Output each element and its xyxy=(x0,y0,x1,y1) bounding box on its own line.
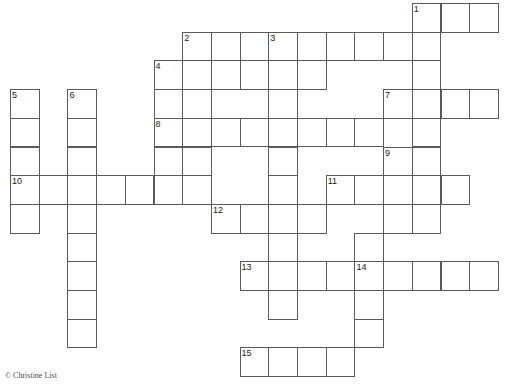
crossword-cell[interactable] xyxy=(96,175,126,205)
crossword-cell[interactable] xyxy=(412,60,442,90)
crossword-cell[interactable] xyxy=(182,60,212,90)
crossword-cell[interactable] xyxy=(211,60,241,90)
crossword-cell[interactable] xyxy=(268,347,298,377)
crossword-cell-numbered[interactable]: 15 xyxy=(240,347,270,377)
crossword-cell[interactable] xyxy=(412,32,442,62)
clue-number: 8 xyxy=(156,119,161,129)
crossword-cell-numbered[interactable]: 12 xyxy=(211,204,241,234)
clue-number: 3 xyxy=(270,33,275,43)
crossword-cell-numbered[interactable]: 1 xyxy=(412,3,442,33)
crossword-cell-numbered[interactable]: 14 xyxy=(354,261,384,291)
crossword-cell[interactable] xyxy=(268,60,298,90)
crossword-cell[interactable] xyxy=(441,261,471,291)
crossword-cell[interactable] xyxy=(354,32,384,62)
crossword-cell[interactable] xyxy=(125,175,155,205)
crossword-cell[interactable] xyxy=(297,118,327,148)
crossword-cell[interactable] xyxy=(326,118,356,148)
crossword-cell[interactable] xyxy=(154,89,184,119)
clue-number: 10 xyxy=(12,176,22,186)
crossword-cell[interactable] xyxy=(469,261,499,291)
crossword-cell[interactable] xyxy=(297,347,327,377)
crossword-cell[interactable] xyxy=(67,118,97,148)
crossword-cell[interactable] xyxy=(182,147,212,177)
crossword-cell[interactable] xyxy=(67,319,97,349)
crossword-cell[interactable] xyxy=(354,319,384,349)
crossword-cell-numbered[interactable]: 9 xyxy=(383,147,413,177)
clue-number: 13 xyxy=(242,262,252,272)
crossword-cell-numbered[interactable]: 2 xyxy=(182,32,212,62)
crossword-cell[interactable] xyxy=(10,118,40,148)
crossword-cell[interactable] xyxy=(383,261,413,291)
clue-number: 4 xyxy=(156,61,161,71)
crossword-cell[interactable] xyxy=(154,147,184,177)
crossword-cell[interactable] xyxy=(297,261,327,291)
crossword-cell[interactable] xyxy=(441,175,471,205)
clue-number: 7 xyxy=(385,90,390,100)
crossword-cell[interactable] xyxy=(67,233,97,263)
crossword-cell[interactable] xyxy=(182,175,212,205)
crossword-cell[interactable] xyxy=(67,261,97,291)
crossword-cell[interactable] xyxy=(354,118,384,148)
crossword-cell[interactable] xyxy=(383,32,413,62)
crossword-cell[interactable] xyxy=(441,3,471,33)
clue-number: 15 xyxy=(242,348,252,358)
crossword-cell[interactable] xyxy=(412,118,442,148)
crossword-cell[interactable] xyxy=(182,89,212,119)
crossword-cell[interactable] xyxy=(67,204,97,234)
crossword-cell-numbered[interactable]: 13 xyxy=(240,261,270,291)
crossword-cell[interactable] xyxy=(268,175,298,205)
crossword-cell[interactable] xyxy=(240,204,270,234)
crossword-cell[interactable] xyxy=(412,261,442,291)
crossword-cell[interactable] xyxy=(297,60,327,90)
crossword-cell[interactable] xyxy=(268,118,298,148)
crossword-cell[interactable] xyxy=(211,118,241,148)
crossword-cell[interactable] xyxy=(354,290,384,320)
crossword-cell[interactable] xyxy=(383,175,413,205)
crossword-cell[interactable] xyxy=(154,175,184,205)
crossword-cell[interactable] xyxy=(297,32,327,62)
crossword-cell[interactable] xyxy=(412,175,442,205)
crossword-cell[interactable] xyxy=(354,175,384,205)
crossword-cell[interactable] xyxy=(412,147,442,177)
crossword-cell[interactable] xyxy=(268,290,298,320)
crossword-cell[interactable] xyxy=(182,118,212,148)
crossword-cell[interactable] xyxy=(268,233,298,263)
crossword-cell[interactable] xyxy=(240,118,270,148)
crossword-cell-numbered[interactable]: 10 xyxy=(10,175,40,205)
crossword-cell[interactable] xyxy=(240,60,270,90)
crossword-cell[interactable] xyxy=(10,147,40,177)
crossword-cell[interactable] xyxy=(268,204,298,234)
crossword-cell[interactable] xyxy=(297,204,327,234)
crossword-cell[interactable] xyxy=(383,204,413,234)
crossword-cell[interactable] xyxy=(469,89,499,119)
clue-number: 12 xyxy=(213,205,223,215)
crossword-cell-numbered[interactable]: 11 xyxy=(326,175,356,205)
crossword-cell[interactable] xyxy=(39,175,69,205)
clue-number: 2 xyxy=(184,33,189,43)
crossword-cell[interactable] xyxy=(67,175,97,205)
crossword-cell[interactable] xyxy=(354,233,384,263)
crossword-cell[interactable] xyxy=(67,147,97,177)
crossword-cell[interactable] xyxy=(441,89,471,119)
crossword-cell[interactable] xyxy=(211,32,241,62)
crossword-cell-numbered[interactable]: 8 xyxy=(154,118,184,148)
crossword-cell-numbered[interactable]: 5 xyxy=(10,89,40,119)
crossword-cell-numbered[interactable]: 6 xyxy=(67,89,97,119)
crossword-cell[interactable] xyxy=(412,89,442,119)
crossword-grid[interactable]: 123456789101112131415 xyxy=(0,0,516,387)
crossword-cell[interactable] xyxy=(268,147,298,177)
crossword-cell-numbered[interactable]: 4 xyxy=(154,60,184,90)
crossword-cell[interactable] xyxy=(268,89,298,119)
crossword-cell-numbered[interactable]: 7 xyxy=(383,89,413,119)
crossword-cell[interactable] xyxy=(412,204,442,234)
crossword-cell[interactable] xyxy=(326,32,356,62)
crossword-cell[interactable] xyxy=(240,32,270,62)
crossword-cell[interactable] xyxy=(469,3,499,33)
clue-number: 1 xyxy=(414,4,419,14)
crossword-cell[interactable] xyxy=(10,204,40,234)
crossword-cell[interactable] xyxy=(326,347,356,377)
crossword-cell[interactable] xyxy=(268,261,298,291)
crossword-cell-numbered[interactable]: 3 xyxy=(268,32,298,62)
crossword-cell[interactable] xyxy=(326,261,356,291)
crossword-cell[interactable] xyxy=(67,290,97,320)
